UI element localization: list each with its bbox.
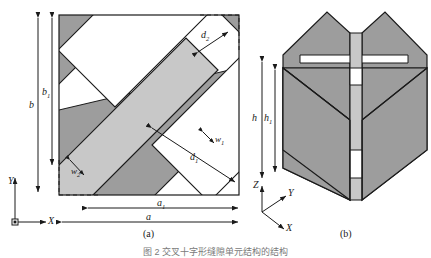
label-axis-y-3d: Y <box>288 188 294 198</box>
label-axis-z-3d: Z <box>253 180 259 190</box>
label-axis-x-2d: X <box>48 216 54 226</box>
label-h1: h1 <box>264 113 272 126</box>
label-a: a <box>146 212 151 222</box>
label-b1: b1 <box>42 87 50 100</box>
axes-3d <box>262 186 286 229</box>
label-d1: d1 <box>190 152 198 165</box>
panel-label-b: (b) <box>340 228 352 239</box>
label-w1: w1 <box>215 135 224 146</box>
label-b: b <box>29 100 34 110</box>
figure-caption: 图 2 交叉十字形缝隙单元结构的结构 <box>0 245 431 258</box>
label-d2: d2 <box>201 30 209 43</box>
label-axis-x-3d: X <box>286 223 292 233</box>
label-axis-y-2d: Y <box>8 176 14 186</box>
label-w2: w2 <box>71 167 80 178</box>
panel-b-solid <box>283 12 427 200</box>
axes-2d <box>12 178 46 225</box>
panel-label-a: (a) <box>143 228 154 239</box>
label-a1: a1 <box>157 198 165 211</box>
label-h: h <box>252 113 257 123</box>
